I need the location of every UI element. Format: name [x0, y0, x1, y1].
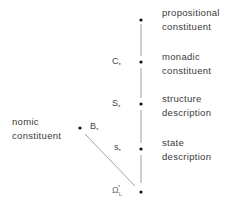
label-line: state: [162, 136, 211, 150]
symbol-omega: ΩL*: [112, 184, 120, 197]
symbol-mark: *: [118, 104, 120, 110]
node-dot-omega: [139, 190, 142, 193]
label-line: monadic: [162, 50, 211, 64]
constituent-hierarchy-diagram: propositional constituent monadic consti…: [0, 0, 225, 206]
node-dot-propositional: [139, 18, 142, 21]
label-state: state description: [162, 136, 211, 164]
label-line: structure: [162, 92, 211, 106]
edge-nomic-omega: [85, 134, 135, 186]
label-line: constituent: [162, 64, 211, 78]
label-propositional: propositional constituent: [162, 6, 220, 34]
label-monadic: monadic constituent: [162, 50, 211, 78]
label-line: propositional: [162, 6, 220, 20]
symbol-state: s*: [114, 142, 121, 154]
symbol-nomic: B*: [90, 121, 98, 133]
symbol-mark: *: [119, 62, 121, 68]
symbol-structure: S*: [112, 98, 120, 110]
label-structure: structure description: [162, 92, 211, 120]
node-dot-structure: [139, 102, 142, 105]
node-dot-state: [139, 147, 142, 150]
label-line: constituent: [162, 20, 220, 34]
symbol-superscript: *: [118, 184, 120, 190]
node-dot-monadic: [139, 60, 142, 63]
node-dot-nomic: [78, 126, 81, 129]
symbol-subscript: L: [119, 191, 122, 197]
symbol-monadic: C*: [112, 56, 121, 68]
label-line: description: [162, 150, 211, 164]
label-line: constituent: [12, 129, 61, 143]
label-line: nomic: [12, 115, 61, 129]
symbol-mark: *: [96, 127, 98, 133]
label-nomic: nomic constituent: [12, 115, 61, 143]
label-line: description: [162, 106, 211, 120]
symbol-mark: *: [119, 148, 121, 154]
